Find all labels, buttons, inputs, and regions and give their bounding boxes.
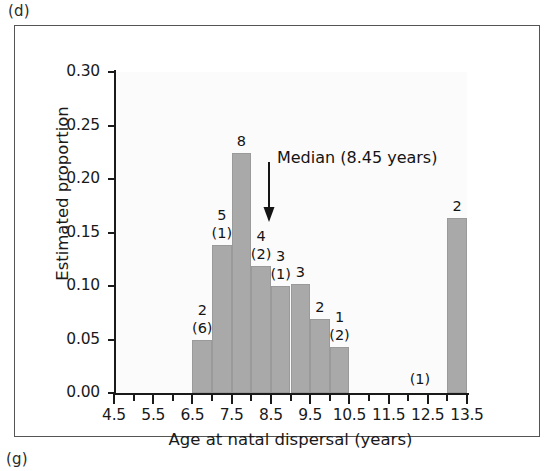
bar-sub-label: (2) [317, 327, 363, 343]
histogram-bar [232, 153, 252, 393]
x-tick-mark-minor [172, 395, 174, 401]
x-tick-mark-minor [446, 395, 448, 401]
y-tick-mark [108, 232, 115, 234]
y-tick-mark [108, 392, 115, 394]
x-tick-mark-minor [407, 395, 409, 401]
y-tick-mark [108, 125, 115, 127]
histogram-bar [192, 340, 212, 394]
x-tick-label: 13.5 [444, 406, 490, 424]
median-label: Median (8.45 years) [277, 148, 438, 167]
histogram-bar [330, 347, 350, 393]
x-tick-mark-minor [290, 395, 292, 401]
y-tick-mark [108, 339, 115, 341]
x-tick-mark-major [309, 395, 311, 404]
x-tick-mark-major [466, 395, 468, 404]
bar-sub-label: (6) [179, 320, 225, 336]
x-tick-mark-minor [211, 395, 213, 401]
x-tick-mark-major [113, 395, 115, 404]
x-tick-mark-minor [368, 395, 370, 401]
histogram-bar [447, 218, 467, 393]
x-tick-mark-major [231, 395, 233, 404]
x-tick-mark-minor [250, 395, 252, 401]
x-tick-mark-major [348, 395, 350, 404]
x-axis-label: Age at natal dispersal (years) [114, 430, 467, 449]
x-tick-mark-major [191, 395, 193, 404]
bar-count-label: 3 [277, 264, 323, 280]
panel-label-g: (g) [6, 450, 28, 468]
bar-count-label: 5 [199, 207, 245, 223]
x-tick-mark-minor [133, 395, 135, 401]
x-tick-mark-major [152, 395, 154, 404]
histogram-bar [251, 266, 271, 393]
bar-count-label: 1 [317, 309, 363, 325]
bar-count-label: 8 [218, 133, 264, 149]
bar-count-label: 4 [238, 228, 284, 244]
y-tick-mark [108, 71, 115, 73]
y-axis-label: Estimated proportion [53, 54, 72, 334]
x-tick-mark-minor [329, 395, 331, 401]
bar-count-label: 3 [258, 248, 304, 264]
histogram-bar [271, 286, 291, 393]
y-tick-mark [108, 285, 115, 287]
figure-panel: (d) 0.000.050.100.150.200.250.30 4.55.56… [0, 0, 551, 471]
bar-count-label: 2 [434, 198, 480, 214]
zero-bin-label: (1) [397, 371, 443, 387]
median-arrow-icon [259, 162, 279, 224]
y-tick-label: 0.00 [40, 383, 100, 401]
bar-count-label: 2 [179, 302, 225, 318]
y-tick-mark [108, 178, 115, 180]
x-tick-mark-major [427, 395, 429, 404]
x-tick-mark-major [270, 395, 272, 404]
x-tick-mark-major [388, 395, 390, 404]
figure-frame: 0.000.050.100.150.200.250.30 4.55.56.57.… [14, 25, 540, 437]
panel-label-d: (d) [8, 2, 30, 20]
